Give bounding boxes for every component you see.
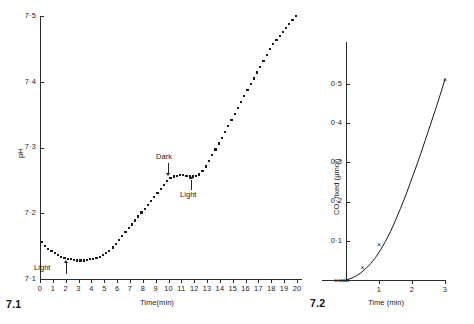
- x-tick-mark: [91, 279, 92, 283]
- data-point: [89, 258, 91, 260]
- annotation-dark-label: Dark: [156, 152, 172, 161]
- x-tick-mark: [104, 279, 105, 283]
- data-point: [230, 119, 232, 121]
- data-point: [137, 215, 139, 217]
- x-tick-mark: [156, 279, 157, 283]
- x-tick-mark: [130, 279, 131, 283]
- data-point: [108, 250, 110, 252]
- x-tick-mark: [207, 279, 208, 283]
- data-point: [105, 252, 107, 254]
- x-tick-mark: [53, 279, 54, 283]
- data-point: [218, 142, 220, 144]
- data-point: [41, 241, 43, 243]
- data-point: [173, 175, 175, 177]
- x-tick-mark: [181, 279, 182, 283]
- panel-7-1: 7·17·27·37·47·50123456789101112131415161…: [0, 0, 320, 324]
- data-point: [279, 35, 281, 37]
- x-tick-mark: [194, 279, 195, 283]
- data-point: [160, 188, 162, 190]
- data-point: [272, 43, 274, 45]
- y-tick-mark: [40, 213, 44, 214]
- data-point: [128, 227, 130, 229]
- x-tick-mark: [79, 279, 80, 283]
- figure-number-7-2: 7.2: [310, 297, 326, 309]
- annotation-light-start-stem: [66, 263, 67, 274]
- data-point: [115, 243, 117, 245]
- data-point: [99, 256, 101, 258]
- data-point: [256, 71, 258, 73]
- data-point: [79, 259, 81, 261]
- data-point: [102, 254, 104, 256]
- data-point: [57, 254, 59, 256]
- co2-fixation-curve: [320, 0, 474, 324]
- data-marker: ×: [360, 263, 364, 270]
- data-point: [266, 54, 268, 56]
- data-point: [131, 223, 133, 225]
- y-tick-label: 7·2: [6, 209, 36, 217]
- x-tick-mark: [143, 279, 144, 283]
- data-point: [195, 175, 197, 177]
- data-point: [83, 259, 85, 261]
- data-point: [227, 125, 229, 127]
- data-point: [179, 174, 181, 176]
- y-tick-mark: [40, 148, 44, 149]
- figure-number-7-1: 7.1: [6, 298, 22, 310]
- data-point: [76, 259, 78, 261]
- data-point: [234, 113, 236, 115]
- annotation-dark-arrowhead: [166, 173, 170, 176]
- x-tick-mark: [284, 279, 285, 283]
- y-axis-title-7-1: pH: [16, 148, 25, 158]
- data-point: [262, 60, 264, 62]
- x-tick-mark: [169, 279, 170, 283]
- data-point: [150, 200, 152, 202]
- data-point: [166, 180, 168, 182]
- x-axis-title-7-1: Time(min): [140, 298, 174, 307]
- data-point: [60, 256, 62, 258]
- data-marker: ×: [346, 277, 350, 284]
- data-point: [63, 257, 65, 259]
- y-tick-label: 7·5: [6, 12, 36, 20]
- data-point: [140, 211, 142, 213]
- annotation-light-resume-stem: [191, 180, 192, 190]
- data-point: [73, 259, 75, 261]
- data-point: [121, 235, 123, 237]
- data-point: [185, 175, 187, 177]
- annotation-light-start-label: Light: [34, 263, 50, 272]
- figure-sheet: 7·17·27·37·47·50123456789101112131415161…: [0, 0, 474, 324]
- annotation-light-start-arrowhead: [64, 260, 68, 263]
- x-tick-mark: [40, 279, 41, 283]
- data-point: [112, 246, 114, 248]
- panel-7-2: 0·10·20·30·40·5123 ×××××××× CO₂ fixed (μ…: [320, 0, 474, 324]
- y-tick-mark: [40, 16, 44, 17]
- x-tick-label: 20: [288, 285, 306, 293]
- y-tick-mark: [40, 82, 44, 83]
- data-point: [282, 31, 284, 33]
- data-point: [118, 239, 120, 241]
- data-point: [86, 259, 88, 261]
- y-tick-label: 7·4: [6, 78, 36, 86]
- data-point: [269, 48, 271, 50]
- x-tick-mark: [220, 279, 221, 283]
- x-tick-mark: [246, 279, 247, 283]
- data-point: [176, 175, 178, 177]
- data-point: [288, 23, 290, 25]
- data-point: [182, 174, 184, 176]
- data-point: [246, 89, 248, 91]
- data-point: [221, 137, 223, 139]
- data-point: [144, 208, 146, 210]
- data-point: [134, 219, 136, 221]
- data-point: [124, 231, 126, 233]
- data-point: [47, 248, 49, 250]
- data-marker: ×: [443, 76, 447, 83]
- data-point: [250, 83, 252, 85]
- data-point: [211, 154, 213, 156]
- x-tick-mark: [117, 279, 118, 283]
- y-axis-title-7-2: CO₂ fixed (μmol): [332, 159, 341, 215]
- data-point: [153, 196, 155, 198]
- data-point: [50, 250, 52, 252]
- data-point: [214, 148, 216, 150]
- x-tick-mark: [233, 279, 234, 283]
- data-point: [275, 39, 277, 41]
- data-point: [253, 77, 255, 79]
- data-point: [243, 95, 245, 97]
